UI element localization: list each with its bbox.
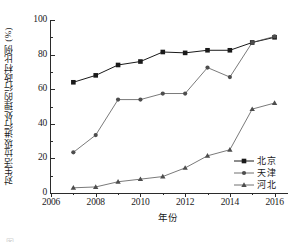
- y-axis-minor-tick: [51, 107, 53, 108]
- x-axis-title: 年份: [50, 210, 287, 224]
- y-axis-title: 对生活垃圾进行处理的行政村比例 (%): [0, 20, 15, 193]
- series-0: [71, 35, 277, 85]
- legend-item-0[interactable]: 北京: [234, 155, 296, 166]
- x-axis-tick-label: 2016: [265, 198, 283, 208]
- y-axis-tick-label: 80: [38, 50, 51, 60]
- y-axis-tick-label: 100: [33, 15, 51, 25]
- y-axis-tick: [51, 158, 55, 159]
- y-axis-tick-label: 40: [38, 119, 51, 129]
- legend-circle-marker-icon: [234, 168, 254, 178]
- y-axis-minor-tick: [51, 37, 53, 38]
- legend: 北京天津河北: [234, 155, 296, 190]
- x-axis-tick-label: 2006: [42, 198, 60, 208]
- x-axis-tick-label: 2008: [87, 198, 105, 208]
- y-axis-tick-label: 20: [38, 154, 51, 164]
- x-axis-minor-tick: [163, 193, 164, 195]
- x-axis-minor-tick: [73, 193, 74, 195]
- legend-item-1[interactable]: 天津: [234, 167, 296, 178]
- x-axis-tick-label: 2010: [131, 198, 149, 208]
- y-axis-minor-tick: [51, 72, 53, 73]
- y-axis-tick-label: 60: [38, 84, 51, 94]
- x-axis-tick-label: 2014: [221, 198, 239, 208]
- y-axis-minor-tick: [51, 141, 53, 142]
- y-axis-tick: [51, 55, 55, 56]
- x-axis-minor-tick: [252, 193, 253, 195]
- y-axis-tick: [51, 89, 55, 90]
- legend-square-marker-icon: [234, 156, 254, 166]
- x-axis-tick-label: 2012: [176, 198, 194, 208]
- y-axis-minor-tick: [51, 176, 53, 177]
- figure: 对生活垃圾进行处理的行政村比例 (%) 02040608010020062008…: [0, 0, 304, 244]
- figure-caption: 图: [6, 236, 298, 242]
- legend-triangle-marker-icon: [234, 180, 254, 190]
- y-axis-tick: [51, 124, 55, 125]
- x-axis-minor-tick: [208, 193, 209, 195]
- legend-label: 河北: [257, 178, 276, 191]
- legend-item-2[interactable]: 河北: [234, 179, 296, 190]
- x-axis-minor-tick: [118, 193, 119, 195]
- y-axis-tick: [51, 20, 55, 21]
